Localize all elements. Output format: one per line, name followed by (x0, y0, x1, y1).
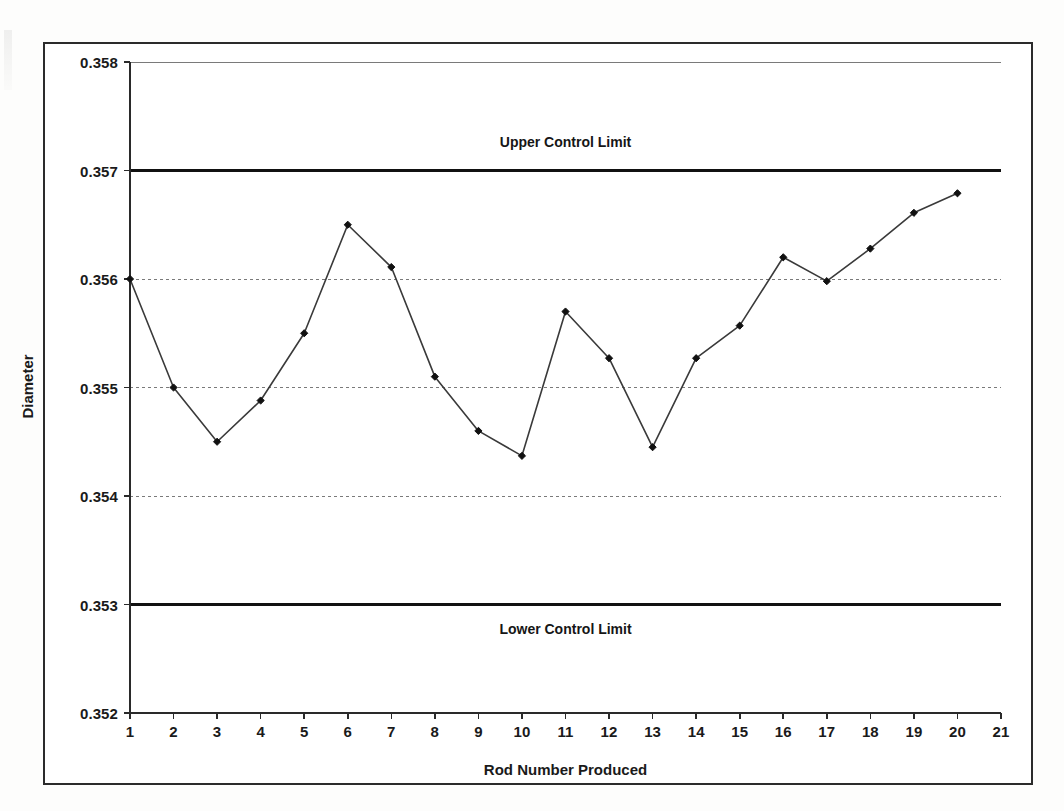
chart-plot-area (45, 44, 1031, 783)
x-axis-tick-label: 11 (557, 723, 573, 740)
x-axis-tick-label: 13 (644, 723, 661, 740)
x-axis-tick-label: 4 (256, 723, 264, 740)
x-axis-tick-label: 2 (169, 723, 177, 740)
lower-control-limit-label: Lower Control Limit (499, 621, 631, 637)
y-axis-tick-label: 0.357 (80, 162, 118, 179)
x-axis-tick-label: 17 (818, 723, 835, 740)
x-axis-tick-label: 5 (300, 723, 308, 740)
x-axis-tick-label: 19 (905, 723, 922, 740)
page-canvas: 0.3520.3530.3540.3550.3560.3570.358 1234… (0, 0, 1064, 811)
x-axis-tick-label: 6 (344, 723, 352, 740)
x-axis-tick-label: 10 (513, 723, 530, 740)
x-axis-title: Rod Number Produced (130, 761, 1001, 778)
data-point-markers (126, 190, 961, 460)
x-axis-tick-label: 16 (775, 723, 792, 740)
x-axis-tick-label: 9 (474, 723, 482, 740)
y-axis-tick-label: 0.352 (80, 705, 118, 722)
data-series-line (130, 193, 957, 456)
y-axis-tick-label: 0.358 (80, 54, 118, 71)
x-axis-tick-label: 20 (949, 723, 966, 740)
x-axis-tick-label: 18 (862, 723, 879, 740)
x-axis-tick-label: 1 (126, 723, 134, 740)
y-axis-title: Diameter (19, 326, 36, 446)
y-axis-tick-label: 0.354 (80, 488, 118, 505)
control-chart: 0.3520.3530.3540.3550.3560.3570.358 1234… (43, 42, 1033, 785)
y-axis-tick-label: 0.355 (80, 379, 118, 396)
gridlines (130, 62, 1001, 496)
x-axis-tick-label: 15 (731, 723, 748, 740)
y-axis-tick-label: 0.356 (80, 271, 118, 288)
x-axis-tick-label: 14 (688, 723, 705, 740)
x-axis-tick-label: 8 (431, 723, 439, 740)
upper-control-limit-label: Upper Control Limit (500, 134, 631, 150)
x-axis-ticks (130, 713, 1001, 719)
x-axis-tick-label: 21 (993, 723, 1010, 740)
scan-artifact (4, 30, 12, 90)
x-axis-tick-label: 3 (213, 723, 221, 740)
x-axis-tick-label: 7 (387, 723, 395, 740)
y-axis-tick-label: 0.353 (80, 596, 118, 613)
y-axis-ticks (124, 62, 130, 713)
x-axis-tick-label: 12 (601, 723, 618, 740)
